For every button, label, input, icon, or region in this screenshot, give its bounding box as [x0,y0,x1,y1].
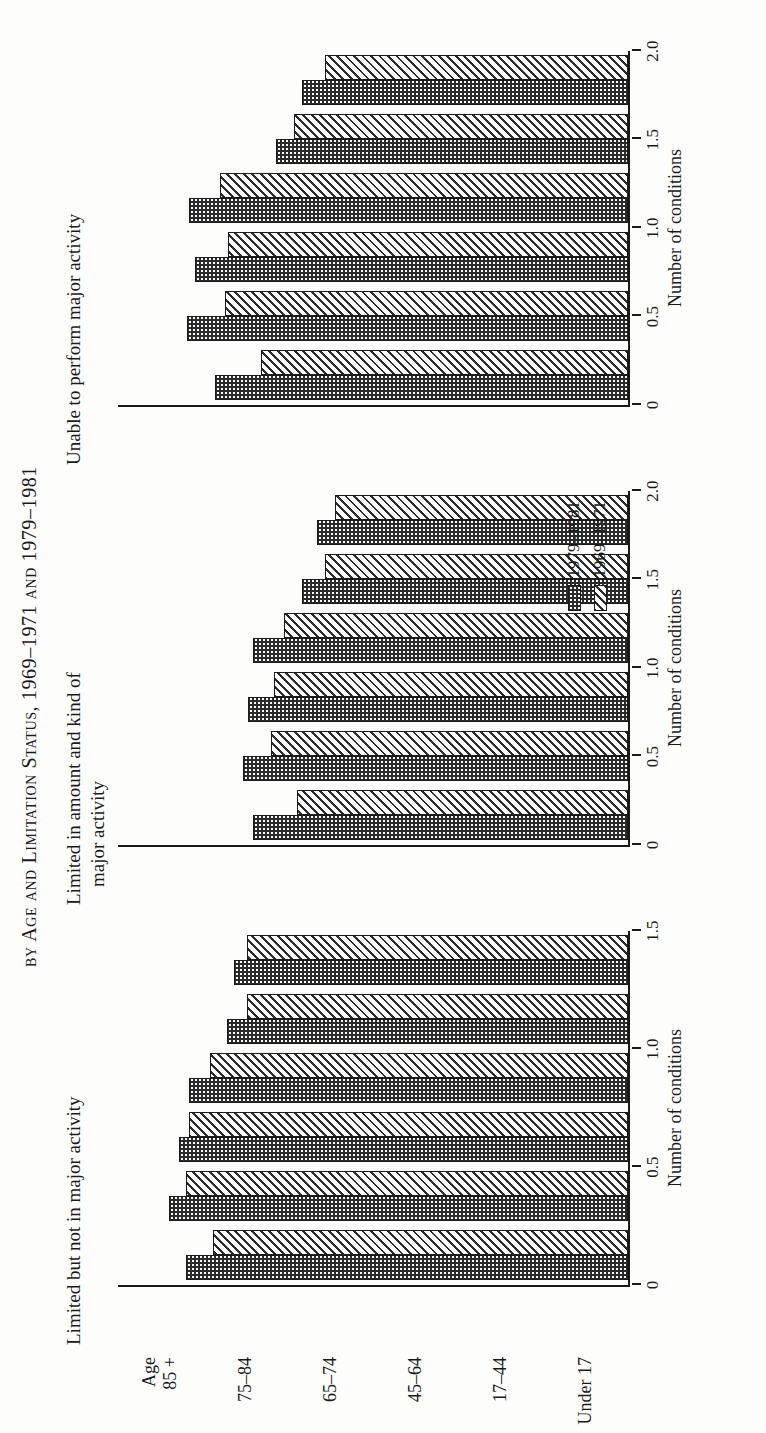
panel-title: Limited but not in major activity [62,925,114,1345]
bar [247,995,628,1020]
bar-group [227,995,628,1045]
bar [227,1020,628,1045]
category-label: 45–64 [405,1357,427,1402]
category-label-line1: Under 17 [575,1357,595,1424]
axis-tick [632,226,641,228]
bar [284,614,628,639]
bar [186,1256,628,1281]
category-label-line2: 85 + [161,1357,183,1390]
bar [261,351,628,376]
axis-tick [632,49,641,51]
legend-swatch [568,586,581,612]
category-label: 75–84 [235,1357,257,1402]
axis-tick [632,403,641,405]
axis-tick-label: 0.5 [643,1156,663,1177]
axis-title: Number of conditions [665,931,686,1285]
panel-title-line1: Unable to perform major activity [63,214,84,465]
axis-tick [632,578,641,580]
bar [228,233,628,258]
axis-tick [632,1165,641,1167]
bar [225,292,628,317]
legend-label: 1979–1981 [564,501,584,578]
bar [210,1054,628,1079]
bar-group [243,732,628,782]
bar [276,140,628,165]
axis-tick-label: 1.5 [643,920,663,941]
bar [247,936,628,961]
category-label: Under 17 [575,1357,597,1424]
category-label: 65–74 [320,1357,342,1402]
axis-tick [632,666,641,668]
bar [189,1079,628,1104]
bar [213,1231,628,1256]
bar [179,1138,628,1163]
bar-group [189,1054,628,1104]
legend-item: 1969–1971 [590,501,610,612]
bar-group [234,936,628,986]
axis-title: Number of conditions [665,51,686,405]
category-label: Age85 + [139,1357,182,1390]
panels-container: Age85 +75–8465–7445–6417–44Under 17 Limi… [62,45,702,1345]
category-axis: Age85 +75–8465–7445–6417–44Under 17 [118,1351,628,1433]
figure-title: by Age and Limitation Status, 1969–1971 … [18,0,41,1433]
axis-tick-label: 1.0 [643,657,663,678]
category-label: 17–44 [490,1357,512,1402]
bar [215,376,628,401]
axis-tick [632,489,641,491]
bar-group [169,1172,628,1222]
value-axis-spine [118,405,630,407]
bar-group [253,614,628,664]
legend-swatch [594,586,607,612]
category-baseline [628,491,630,847]
bar [253,639,628,664]
axis-tick [632,315,641,317]
axis-title: Number of conditions [665,491,686,845]
axis-tick-label: 1.0 [643,1038,663,1059]
bar [186,1172,628,1197]
bar [169,1197,628,1222]
axis-tick-label: 1.0 [643,217,663,238]
panel-title-line1: Limited in amount and kind of [63,672,84,905]
axis-tick [632,1283,641,1285]
axis-tick [632,843,641,845]
bar [274,673,628,698]
bar [294,115,628,140]
bar [243,757,628,782]
bar-group [215,351,628,401]
panel-title-line2: major activity [86,485,110,905]
axis-tick-label: 0 [643,1281,663,1290]
axis-tick [632,755,641,757]
value-axis-spine [118,845,630,847]
bar-group [248,673,628,723]
bar [248,698,628,723]
bar-group [302,56,628,106]
category-label-line1: 75–84 [235,1357,255,1402]
rotated-figure-wrapper: by Age and Limitation Status, 1969–1971 … [0,0,766,1433]
legend-item: 1979–1981 [564,501,584,612]
bar-group-container [118,491,628,845]
category-label-line1: 17–44 [490,1357,510,1402]
bar [325,56,628,81]
bar-group-container [118,51,628,405]
panel-title: Limited in amount and kind of major acti… [62,485,114,905]
bar [297,791,629,816]
bar [220,174,628,199]
bar-group [276,115,628,165]
bar [187,317,628,342]
bar [302,81,628,106]
category-baseline [628,51,630,407]
panel-title: Unable to perform major activity [62,45,114,465]
bar-group [189,174,628,224]
axis-tick-label: 2.0 [643,40,663,61]
axis-tick [632,1047,641,1049]
category-label-line1: 65–74 [320,1357,340,1402]
bar-group [253,791,628,841]
bar [189,199,628,224]
plot-area: 00.51.01.52.0 Number of conditions [118,51,630,407]
category-baseline [628,931,630,1287]
bar [253,816,628,841]
category-label-line1: 45–64 [405,1357,425,1402]
bar [195,258,629,283]
plot-area: 00.51.01.5 Number of conditions [118,931,630,1287]
bar-group [187,292,628,342]
